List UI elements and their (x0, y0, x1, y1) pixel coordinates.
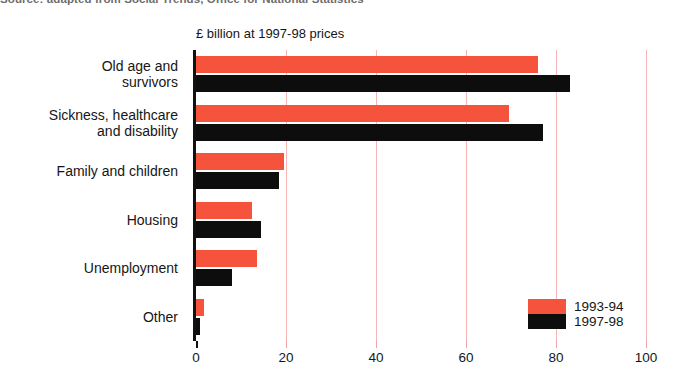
bar-1993-94 (196, 299, 204, 316)
x-axis-tick (196, 341, 198, 348)
legend-label-1997-98: 1997-98 (574, 314, 624, 329)
y-axis-line (193, 50, 196, 341)
legend-item: 1993-94 (528, 299, 624, 314)
chart-legend: 1993-94 1997-98 (528, 299, 624, 329)
gridline (286, 50, 287, 341)
bar-1997-98 (196, 221, 261, 238)
x-axis-tick-label: 40 (346, 350, 406, 365)
legend-swatch-1993-94 (528, 299, 566, 314)
category-label-line: Old age and (0, 58, 178, 74)
x-axis-tick-label: 0 (166, 350, 226, 365)
category-label-line: and disability (0, 123, 178, 139)
category-label: Old age andsurvivors (0, 58, 186, 90)
gridline (376, 50, 377, 341)
category-label: Family and children (0, 163, 186, 179)
gridline (556, 50, 557, 341)
legend-swatch-1997-98 (528, 314, 566, 329)
gridline (646, 50, 647, 341)
bar-1993-94 (196, 250, 257, 267)
bar-1993-94 (196, 153, 284, 170)
category-label-line: Other (0, 309, 178, 325)
bar-1993-94 (196, 105, 509, 122)
x-axis-tick (286, 341, 287, 348)
bar-1993-94 (196, 56, 538, 73)
category-label: Sickness, healthcareand disability (0, 107, 186, 139)
legend-label-1993-94: 1993-94 (574, 299, 624, 314)
plot-area (196, 50, 646, 341)
x-axis-tick-label: 20 (256, 350, 316, 365)
bar-1997-98 (196, 269, 232, 286)
category-label-line: Sickness, healthcare (0, 107, 178, 123)
x-axis-tick-label: 80 (526, 350, 586, 365)
category-label: Other (0, 309, 186, 325)
x-axis-tick (376, 341, 377, 348)
category-label-line: Family and children (0, 163, 178, 179)
bar-chart: £ billion at 1997-98 prices 1993-94 1997… (0, 0, 681, 379)
axis-unit-title: £ billion at 1997-98 prices (196, 26, 344, 41)
bar-1997-98 (196, 318, 200, 335)
bar-1993-94 (196, 202, 252, 219)
category-label: Unemployment (0, 260, 186, 276)
category-label-line: Housing (0, 212, 178, 228)
gridline (466, 50, 467, 341)
category-label: Housing (0, 212, 186, 228)
bar-1997-98 (196, 172, 279, 189)
x-axis-tick-label: 60 (436, 350, 496, 365)
category-label-line: survivors (0, 74, 178, 90)
category-label-line: Unemployment (0, 260, 178, 276)
x-axis-tick (556, 341, 557, 348)
x-axis-line (193, 341, 649, 343)
bar-1997-98 (196, 75, 570, 92)
x-axis-tick (466, 341, 467, 348)
x-axis-tick-label: 100 (616, 350, 676, 365)
bar-1997-98 (196, 124, 543, 141)
x-axis-tick (646, 341, 647, 348)
legend-item: 1997-98 (528, 314, 624, 329)
